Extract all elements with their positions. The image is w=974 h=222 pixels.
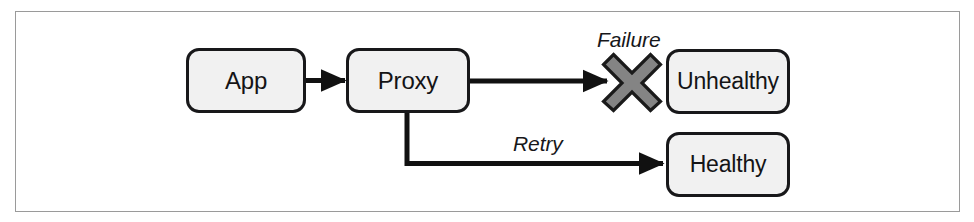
- node-app[interactable]: App: [186, 48, 306, 113]
- node-unhealthy-label: Unhealthy: [677, 70, 779, 93]
- diagram-frame: [15, 11, 960, 212]
- failure-cross-icon: [601, 52, 663, 113]
- node-proxy-label: Proxy: [378, 69, 438, 93]
- node-app-label: App: [225, 69, 267, 93]
- edge-label-failure: Failure: [597, 28, 661, 52]
- edge-label-retry: Retry: [513, 132, 563, 156]
- diagram-screenshot: App Proxy Unhealthy Healthy Failure Retr…: [0, 0, 974, 222]
- node-unhealthy[interactable]: Unhealthy: [666, 49, 790, 114]
- node-healthy[interactable]: Healthy: [666, 132, 790, 197]
- node-proxy[interactable]: Proxy: [346, 48, 470, 113]
- node-healthy-label: Healthy: [690, 153, 767, 176]
